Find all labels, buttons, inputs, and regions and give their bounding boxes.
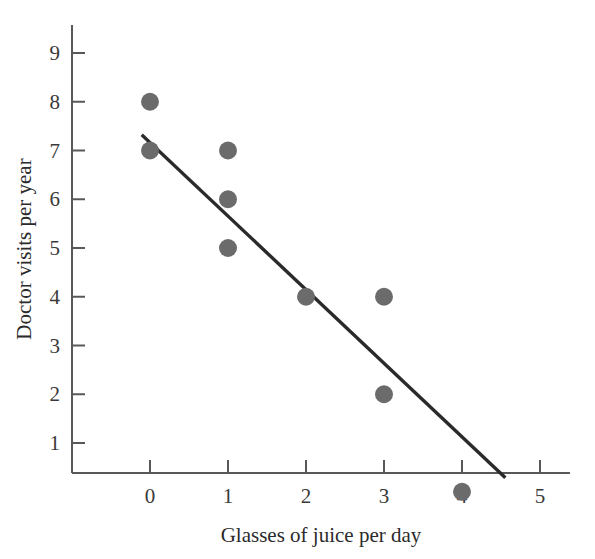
data-point	[219, 190, 237, 208]
data-point-group	[141, 93, 471, 501]
y-tick-label-4: 4	[50, 285, 61, 309]
y-axis-title: Doctor visits per year	[12, 158, 36, 339]
data-point	[297, 288, 315, 306]
y-tick-label-9: 9	[50, 41, 61, 65]
y-tick-label-7: 7	[50, 139, 61, 163]
data-point	[375, 385, 393, 403]
x-tick-label-2: 2	[301, 484, 312, 508]
axes-group	[72, 25, 570, 473]
plot-canvas: 123456789 012345 Glasses of juice per da…	[0, 0, 595, 559]
scatter-plot-figure: 123456789 012345 Glasses of juice per da…	[0, 0, 595, 559]
y-tick-label-3: 3	[50, 334, 61, 358]
x-tick-label-3: 3	[379, 484, 390, 508]
x-axis-title: Glasses of juice per day	[221, 523, 422, 547]
y-tick-label-1: 1	[50, 431, 61, 455]
data-point	[141, 142, 159, 160]
data-point	[375, 288, 393, 306]
trend-line	[143, 136, 504, 477]
data-point	[219, 239, 237, 257]
y-tick-label-5: 5	[50, 236, 61, 260]
y-axis-ticks	[72, 53, 85, 443]
y-axis-tick-labels: 123456789	[50, 41, 61, 455]
y-tick-label-8: 8	[50, 90, 61, 114]
y-tick-label-2: 2	[50, 382, 61, 406]
data-point	[219, 142, 237, 160]
x-tick-label-1: 1	[223, 484, 234, 508]
x-tick-label-0: 0	[145, 484, 156, 508]
x-axis-ticks	[150, 460, 540, 473]
y-tick-label-6: 6	[50, 187, 61, 211]
data-point	[453, 483, 471, 501]
data-point	[141, 93, 159, 111]
x-tick-label-5: 5	[535, 484, 546, 508]
x-axis-tick-labels: 012345	[145, 484, 546, 508]
